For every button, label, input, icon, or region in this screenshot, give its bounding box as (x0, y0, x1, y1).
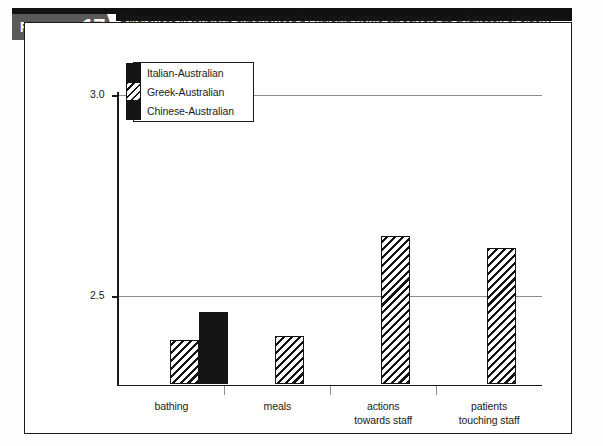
legend-swatch-solid (126, 63, 141, 82)
legend-swatch-hatch (126, 82, 141, 101)
legend-label: Greek-Australian (147, 86, 224, 98)
legend: Italian-AustralianGreek-AustralianChines… (133, 62, 254, 122)
chart-frame (24, 22, 572, 434)
figure-page: FIGURE 17.7 Differences in tensions expe… (0, 0, 603, 446)
legend-item: Italian-Australian (134, 63, 253, 82)
legend-item: Greek-Australian (134, 82, 253, 101)
legend-item: Chinese-Australian (134, 101, 253, 120)
legend-rows: Italian-AustralianGreek-AustralianChines… (134, 63, 253, 120)
legend-label: Chinese-Australian (147, 105, 234, 117)
legend-swatch-solid (126, 101, 141, 120)
legend-label: Italian-Australian (147, 67, 223, 79)
